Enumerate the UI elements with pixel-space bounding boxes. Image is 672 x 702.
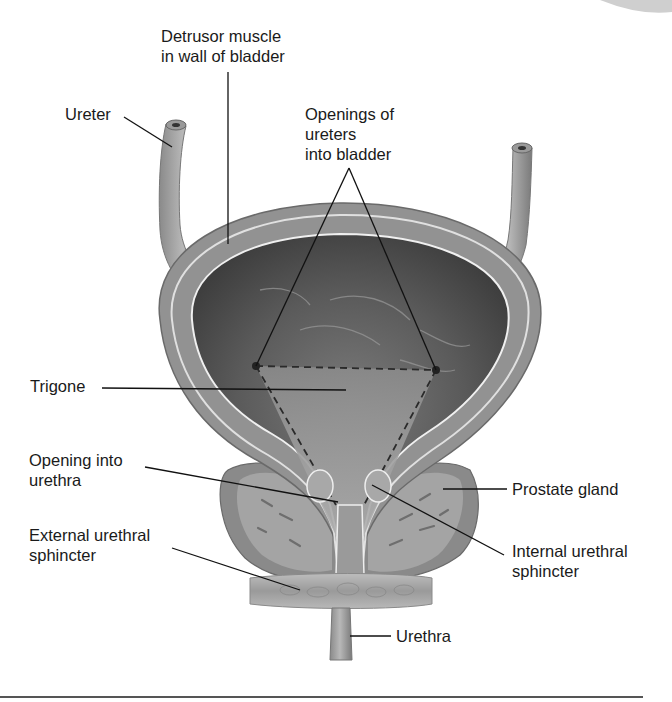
- prostatic-urethra: [336, 505, 364, 575]
- label-opening-urethra: Opening into urethra: [29, 450, 123, 490]
- label-detrusor: Detrusor muscle in wall of bladder: [161, 26, 285, 66]
- label-trigone: Trigone: [30, 376, 85, 396]
- label-ureter: Ureter: [65, 104, 111, 124]
- urethra-tube: [330, 608, 352, 660]
- label-external-sphincter: External urethral sphincter: [29, 525, 150, 565]
- external-sphincter: [250, 574, 432, 609]
- left-ureter-opening: [252, 362, 260, 370]
- label-urethra: Urethra: [396, 626, 451, 646]
- label-openings-ureters: Openings of ureters into bladder: [305, 104, 394, 164]
- corner-shape: [600, 0, 672, 13]
- label-internal-sphincter: Internal urethral sphincter: [512, 541, 628, 581]
- label-prostate: Prostate gland: [512, 479, 618, 499]
- bladder-diagram: Detrusor muscle in wall of bladder Urete…: [0, 0, 672, 702]
